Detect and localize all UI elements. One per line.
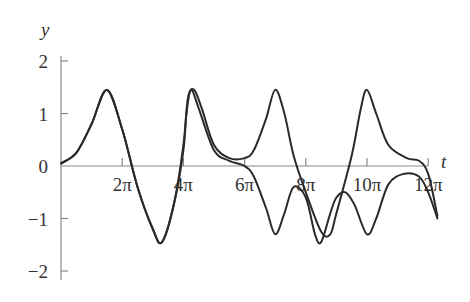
axes	[61, 56, 428, 280]
x-tick-label: 2π	[113, 174, 133, 195]
y-tick-label: 0	[39, 156, 49, 177]
x-tick-label: 6π	[235, 174, 255, 195]
y-axis-label: y	[39, 19, 50, 40]
y-tick-label: 2	[39, 51, 49, 72]
x-ticks: 2π4π6π8π10π12π	[113, 158, 443, 195]
y-tick-label: 1	[39, 104, 49, 125]
y-tick-label: −2	[28, 261, 48, 282]
x-tick-label: 10π	[353, 174, 382, 195]
chart: 210−1−2 2π4π6π8π10π12π y t	[0, 0, 470, 302]
x-axis-label: t	[441, 151, 447, 172]
y-tick-label: −1	[28, 209, 48, 230]
curve-b	[61, 90, 437, 244]
